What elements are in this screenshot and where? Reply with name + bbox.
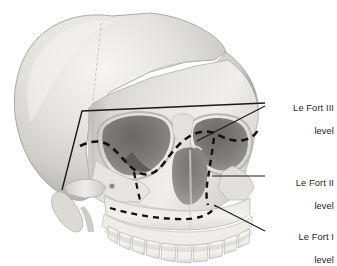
nasal-septum bbox=[190, 150, 191, 204]
label-le-fort-3-line1: Le Fort III bbox=[268, 103, 334, 114]
label-le-fort-1: Le Fort I level bbox=[268, 221, 334, 266]
zygomaticofacial-foramen bbox=[109, 183, 114, 188]
label-le-fort-1-line2: level bbox=[268, 255, 334, 266]
label-le-fort-3-line2: level bbox=[268, 126, 334, 137]
label-le-fort-2: Le Fort II level bbox=[268, 167, 334, 223]
label-le-fort-3: Le Fort III level bbox=[268, 92, 334, 148]
zygomatic-body-right bbox=[218, 166, 254, 200]
label-le-fort-2-line2: level bbox=[268, 201, 334, 212]
illustration-canvas: Le Fort III level Le Fort II level Le Fo… bbox=[0, 0, 337, 266]
label-le-fort-1-line1: Le Fort I bbox=[268, 232, 334, 243]
label-le-fort-2-line1: Le Fort II bbox=[268, 178, 334, 189]
